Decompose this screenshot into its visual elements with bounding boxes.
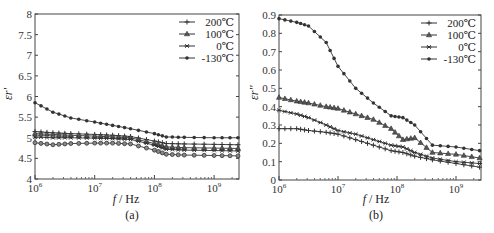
y-tick-label: 0.9 <box>262 9 276 21</box>
chart-a-legend: 200℃100℃0℃-130℃ <box>179 16 234 64</box>
y-tick-label: 0.2 <box>262 137 276 149</box>
chart-a-x-label: f / Hz <box>113 192 140 206</box>
y-tick-label: 0.5 <box>262 82 276 94</box>
y-tick-label: 5.5 <box>18 111 32 123</box>
y-tick-label: 7 <box>27 49 33 61</box>
y-tick-label: 0.6 <box>262 64 276 76</box>
y-tick-label: 0.8 <box>262 27 276 39</box>
series-markers <box>276 95 482 160</box>
legend-label: 0℃ <box>216 40 234 52</box>
x-tick-label: 106 <box>272 182 287 195</box>
x-tick-label: 109 <box>207 181 222 194</box>
x-tick-label: 107 <box>87 181 102 194</box>
x-tick-label: 107 <box>331 182 346 195</box>
chart-b-x-label: f / Hz <box>363 192 390 206</box>
y-tick-label: 7.5 <box>18 29 32 41</box>
x-tick-label: 106 <box>28 181 43 194</box>
y-tick-label: 6 <box>27 91 33 103</box>
y-tick-label: 8 <box>27 8 33 20</box>
y-tick-label: 4.5 <box>18 152 32 164</box>
y-tick-label: 0.4 <box>262 101 276 113</box>
legend-label: -130℃ <box>202 52 234 64</box>
chart-b-permittivity-imag: 00.10.20.30.40.50.60.70.80.9 10610710810… <box>247 9 482 222</box>
legend-label: 0℃ <box>458 41 476 53</box>
chart-a-permittivity-real: 44.555.566.577.58 106107108109 200℃100℃0… <box>1 8 241 222</box>
chart-a-caption: (a) <box>125 208 138 222</box>
figure: 44.555.566.577.58 106107108109 200℃100℃0… <box>0 0 494 233</box>
x-tick-label: 108 <box>147 181 162 194</box>
legend-label: 200℃ <box>447 17 476 29</box>
y-tick-label: 5 <box>27 132 33 144</box>
chart-a-y-label: εr' <box>1 88 15 100</box>
series-markers <box>277 109 483 166</box>
y-tick-label: 6.5 <box>18 70 32 82</box>
y-tick-label: 0.3 <box>262 119 276 131</box>
y-tick-label: 0.1 <box>262 156 276 168</box>
x-tick-label: 108 <box>390 182 405 195</box>
x-tick-label: 109 <box>449 182 464 195</box>
chart-b-caption: (b) <box>369 208 383 222</box>
chart-b-legend: 200℃100℃0℃-130℃ <box>421 17 476 65</box>
series-line <box>35 103 238 138</box>
chart-b-y-label: εr'' <box>247 85 261 100</box>
legend-label: 200℃ <box>205 16 234 28</box>
chart-a-series <box>32 101 240 158</box>
y-tick-label: 0.7 <box>262 46 276 58</box>
legend-label: -130℃ <box>444 53 476 65</box>
legend-label: 100℃ <box>447 29 476 41</box>
legend-label: 100℃ <box>205 28 234 40</box>
